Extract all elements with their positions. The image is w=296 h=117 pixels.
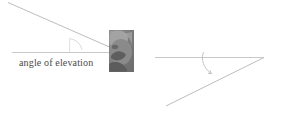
trigonometry-angle-figure: angle of elevation angle of depression [0,0,296,117]
observer-photo-elevation [109,30,134,72]
caption-angle-of-elevation: angle of elevation [19,58,93,68]
panel-angle-of-depression: angle of depression [148,0,296,117]
person-photo-icon [109,30,134,72]
panel-angle-of-elevation: angle of elevation [0,0,148,117]
